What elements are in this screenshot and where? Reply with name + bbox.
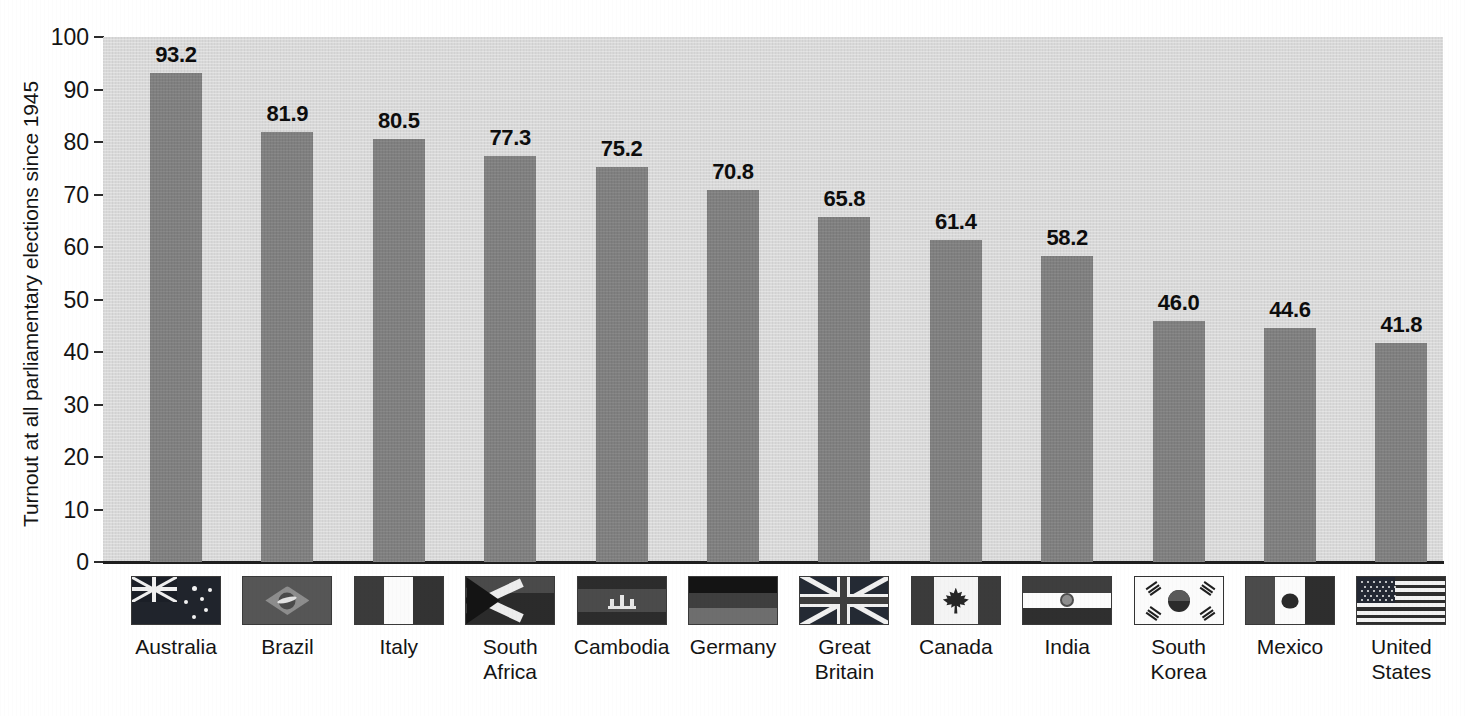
bar[interactable]: 58.2 <box>1041 256 1093 562</box>
bar[interactable]: 80.5 <box>373 139 425 562</box>
flag-cambodia-icon <box>577 576 667 625</box>
country-label-line1: United <box>1345 634 1457 659</box>
country-label: Brazil <box>231 634 343 659</box>
country-label: Australia <box>120 634 232 659</box>
plot-area: 93.281.980.577.375.270.865.861.458.246.0… <box>103 37 1443 562</box>
bar-value-label: 80.5 <box>378 108 420 134</box>
country-label-line1: Brazil <box>231 634 343 659</box>
flag-germany-icon <box>688 576 778 625</box>
x-axis-category: Brazil <box>231 564 343 659</box>
country-label: Canada <box>900 634 1012 659</box>
flag-india-icon <box>1022 576 1112 625</box>
x-axis-category: UnitedStates <box>1345 564 1457 684</box>
x-axis-category: Germany <box>677 564 789 659</box>
x-axis-category: Canada <box>900 564 1012 659</box>
y-axis-tick-label: 70 <box>63 181 89 208</box>
country-label-line1: Great <box>788 634 900 659</box>
y-axis-tick-label: 50 <box>63 286 89 313</box>
country-label-line1: India <box>1011 634 1123 659</box>
country-label-line1: South <box>1123 634 1235 659</box>
bar[interactable]: 81.9 <box>261 132 313 562</box>
x-axis-category: Australia <box>120 564 232 659</box>
x-axis-category: Cambodia <box>566 564 678 659</box>
y-axis-tick-label: 60 <box>63 234 89 261</box>
country-label-line2: Africa <box>454 659 566 684</box>
country-label-line2: Korea <box>1123 659 1235 684</box>
x-axis-category: India <box>1011 564 1123 659</box>
bar-value-label: 65.8 <box>824 186 866 212</box>
bar[interactable]: 93.2 <box>150 73 202 562</box>
bar-value-label: 58.2 <box>1046 225 1088 251</box>
country-label-line1: Germany <box>677 634 789 659</box>
bar-value-label: 41.8 <box>1381 312 1423 338</box>
y-axis-tick-label: 90 <box>63 76 89 103</box>
country-label-line1: South <box>454 634 566 659</box>
bar[interactable]: 46.0 <box>1153 321 1205 563</box>
country-label: Italy <box>343 634 455 659</box>
country-label: Mexico <box>1234 634 1346 659</box>
flag-canada-icon <box>911 576 1001 625</box>
country-label: Germany <box>677 634 789 659</box>
x-axis-category: SouthKorea <box>1123 564 1235 684</box>
flag-italy-icon <box>354 576 444 625</box>
country-label: India <box>1011 634 1123 659</box>
bar-value-label: 61.4 <box>935 209 977 235</box>
x-axis-category: Italy <box>343 564 455 659</box>
bar-value-label: 81.9 <box>267 101 309 127</box>
x-axis-category: SouthAfrica <box>454 564 566 684</box>
country-label-line1: Australia <box>120 634 232 659</box>
bar-value-label: 77.3 <box>489 125 531 151</box>
country-label: SouthKorea <box>1123 634 1235 684</box>
bar[interactable]: 70.8 <box>707 190 759 562</box>
flag-mexico-icon <box>1245 576 1335 625</box>
country-label-line2: States <box>1345 659 1457 684</box>
bar-value-label: 70.8 <box>712 159 754 185</box>
y-axis-tick-label: 40 <box>63 339 89 366</box>
country-label: UnitedStates <box>1345 634 1457 684</box>
bar-value-label: 44.6 <box>1269 297 1311 323</box>
x-axis-category: Mexico <box>1234 564 1346 659</box>
country-label: GreatBritain <box>788 634 900 684</box>
country-label: SouthAfrica <box>454 634 566 684</box>
y-axis-tick-label: 10 <box>63 496 89 523</box>
bar[interactable]: 77.3 <box>484 156 536 562</box>
x-axis-categories: AustraliaBrazilItalySouthAfricaCambodiaG… <box>0 564 1466 716</box>
flag-australia-icon <box>131 576 221 625</box>
bar-value-label: 75.2 <box>601 136 643 162</box>
flag-south-africa-icon <box>465 576 555 625</box>
flag-south-korea-icon <box>1134 576 1224 625</box>
y-axis-tick-label: 80 <box>63 129 89 156</box>
x-axis-category: GreatBritain <box>788 564 900 684</box>
y-axis-tick-label: 100 <box>51 24 89 51</box>
country-label-line1: Cambodia <box>566 634 678 659</box>
bar[interactable]: 41.8 <box>1375 343 1427 562</box>
country-label: Cambodia <box>566 634 678 659</box>
flag-united-states-icon <box>1356 576 1446 625</box>
bar-chart-figure: Turnout at all parliamentary elections s… <box>0 0 1466 716</box>
country-label-line2: Britain <box>788 659 900 684</box>
flag-great-britain-icon <box>799 576 889 625</box>
flag-brazil-icon <box>242 576 332 625</box>
bar[interactable]: 65.8 <box>818 217 870 562</box>
y-axis-tick-label: 20 <box>63 444 89 471</box>
country-label-line1: Canada <box>900 634 1012 659</box>
country-label-line1: Mexico <box>1234 634 1346 659</box>
bar-value-label: 46.0 <box>1158 290 1200 316</box>
y-axis-tick-label: 30 <box>63 391 89 418</box>
bar[interactable]: 61.4 <box>930 240 982 562</box>
bar-value-label: 93.2 <box>155 42 197 68</box>
bar[interactable]: 44.6 <box>1264 328 1316 562</box>
bar[interactable]: 75.2 <box>596 167 648 562</box>
country-label-line1: Italy <box>343 634 455 659</box>
